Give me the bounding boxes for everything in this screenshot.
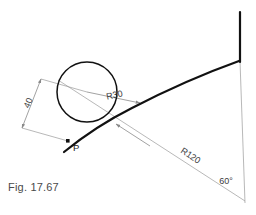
- extension-line-lower: [22, 128, 68, 141]
- figure-container: 40 R30 R120 60° P Fig. 17.67: [0, 0, 256, 215]
- dimension-label-40: 40: [22, 96, 35, 109]
- radius-label-r120: R120: [179, 145, 202, 165]
- radius-label-r30: R30: [105, 88, 123, 101]
- main-arc-r120: [64, 61, 239, 152]
- point-label-p: P: [73, 142, 79, 153]
- radius-arrow-r120: [116, 124, 150, 146]
- angle-label-60: 60°: [219, 176, 233, 186]
- angle-reference-line: [240, 61, 245, 203]
- extension-line-upper: [41, 79, 87, 92]
- figure-caption: Fig. 17.67: [8, 181, 59, 193]
- point-p-marker: [66, 139, 70, 143]
